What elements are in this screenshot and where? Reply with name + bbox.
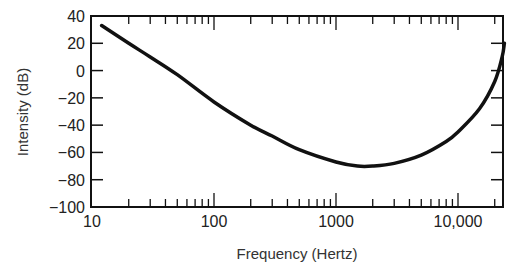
threshold-curve [102,26,505,167]
y-axis-title: Intensity (dB) [14,68,31,156]
y-tick-label: −60 [58,144,85,161]
y-tick-label: −80 [58,172,85,189]
x-tick-label: 1000 [318,213,354,230]
x-axis-title: Frequency (Hertz) [237,245,358,262]
y-tick-label: 40 [67,8,85,25]
threshold-chart: 40200−20−40−60−80−10010100100010,000 Fre… [0,0,515,276]
x-tick-label: 10 [83,213,101,230]
x-tick-label: 10,000 [434,213,483,230]
y-tick-label: 0 [76,63,85,80]
y-tick-label: −20 [58,90,85,107]
plot-area: 40200−20−40−60−80−10010100100010,000 [49,8,504,230]
y-tick-label: −40 [58,117,85,134]
y-tick-label: −100 [49,199,85,216]
y-tick-label: 20 [67,35,85,52]
plot-frame [91,16,503,207]
x-tick-label: 100 [201,213,228,230]
